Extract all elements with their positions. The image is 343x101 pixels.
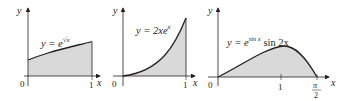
equation-2: y = 2xex [135, 23, 172, 36]
x-axis-label-3: x [330, 77, 336, 88]
x-tick-label-2: 1 [183, 80, 188, 90]
x-axis-label-1: x [96, 77, 102, 88]
graph-panel-2: y 0 1 x y = 2xex [112, 5, 198, 90]
equation-3: y = esin x sin 2x [226, 35, 290, 48]
origin-label-2: 0 [112, 79, 117, 89]
pi-label-den: 2 [314, 91, 318, 100]
x-tick-label-3: 1 [278, 82, 283, 92]
pi-label-num: π [313, 81, 318, 90]
y-axis-label-3: y [207, 5, 213, 16]
y-axis-label-2: y [112, 5, 118, 16]
origin-label-3: 0 [208, 80, 213, 90]
x-tick-label-1: 1 [89, 80, 94, 90]
equation-1: y = e√x [40, 36, 70, 49]
graph-panel-3: y 0 1 π 2 x y = esin x sin 2x [207, 5, 336, 100]
x-axis-label-2: x [192, 77, 198, 88]
origin-label-1: 0 [20, 79, 25, 89]
y-axis-label-1: y [16, 5, 22, 16]
graph-panel-1: y 0 1 x y = e√x [16, 5, 102, 90]
